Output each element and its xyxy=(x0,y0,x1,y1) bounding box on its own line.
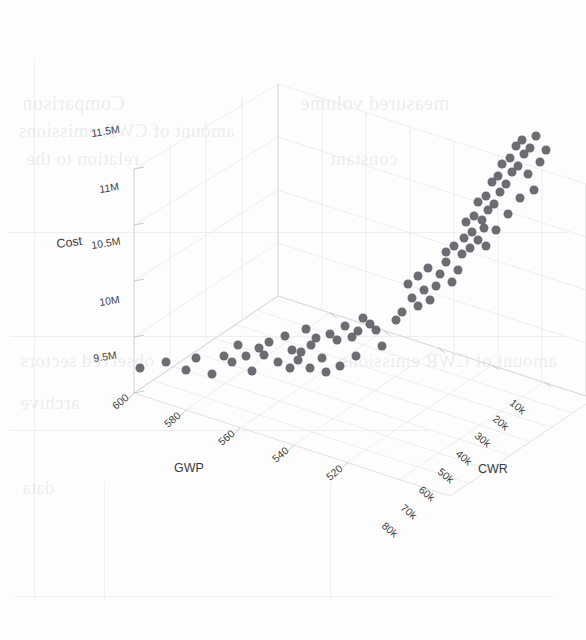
data-point xyxy=(442,258,451,267)
right-wall-grid xyxy=(278,84,586,396)
data-point xyxy=(432,282,441,291)
data-point xyxy=(288,346,297,355)
data-point xyxy=(302,325,311,334)
data-point xyxy=(341,322,350,331)
data-point xyxy=(474,198,483,207)
data-point xyxy=(518,136,527,145)
data-point xyxy=(352,352,361,361)
data-point xyxy=(516,194,525,203)
data-point xyxy=(265,338,274,347)
data-point xyxy=(526,144,535,153)
data-point xyxy=(354,327,363,336)
data-point xyxy=(378,342,387,351)
data-point xyxy=(281,332,290,341)
data-point xyxy=(498,160,507,169)
data-point xyxy=(478,216,487,225)
scatter-plot-3d: 11.5M 11M 10.5M 10M 9.5M Cost 600 580 56… xyxy=(0,0,586,640)
cwr-tick-label: 70k xyxy=(399,501,420,522)
gwp-tick-label: 540 xyxy=(270,444,291,465)
cost-axis: 11.5M 11M 10.5M 10M 9.5M Cost xyxy=(56,123,144,393)
data-point xyxy=(514,162,523,171)
data-point xyxy=(260,351,269,360)
data-point xyxy=(442,248,451,257)
cost-tick-label: 9.5M xyxy=(92,348,117,364)
data-point xyxy=(480,224,489,233)
data-point xyxy=(274,358,283,367)
cwr-axis: 10k 20k 30k 40k 50k 60k 70k 80k CWR xyxy=(330,313,551,540)
data-point xyxy=(248,367,257,376)
cost-axis-title: Cost xyxy=(56,234,84,251)
data-point xyxy=(306,364,315,373)
data-point xyxy=(490,200,499,209)
data-point xyxy=(294,356,303,365)
data-point xyxy=(228,358,237,367)
data-point xyxy=(192,354,201,363)
data-point xyxy=(506,154,515,163)
data-point xyxy=(326,330,335,339)
data-point xyxy=(436,270,445,279)
data-point xyxy=(426,296,435,305)
data-point xyxy=(286,364,295,373)
data-point xyxy=(333,336,342,345)
data-point xyxy=(408,294,417,303)
cost-tick-label: 11.5M xyxy=(90,123,120,139)
data-point xyxy=(312,334,321,343)
data-point xyxy=(208,370,217,379)
data-point xyxy=(502,180,511,189)
data-point xyxy=(468,228,477,237)
data-point xyxy=(532,132,541,141)
data-point xyxy=(466,244,475,253)
cwr-tick-label: 40k xyxy=(454,447,475,468)
data-point xyxy=(458,250,467,259)
data-point xyxy=(496,188,505,197)
data-point xyxy=(136,364,145,373)
cwr-tick-label: 10k xyxy=(508,396,529,417)
data-point xyxy=(482,242,491,251)
data-point xyxy=(392,316,401,325)
data-point xyxy=(530,186,539,195)
data-point xyxy=(404,280,413,289)
data-point xyxy=(359,314,368,323)
data-point xyxy=(414,272,423,281)
data-point xyxy=(454,266,463,275)
figure-page: Comparison amount of CWR emissions relat… xyxy=(0,0,586,640)
cwr-tick-label: 80k xyxy=(380,519,401,540)
data-point-group xyxy=(136,132,551,379)
data-point xyxy=(450,242,459,251)
gwp-tick-label: 520 xyxy=(324,462,345,483)
cwr-axis-title: CWR xyxy=(478,462,508,476)
gwp-tick-label: 580 xyxy=(162,409,183,430)
data-point xyxy=(504,210,513,219)
cwr-tick-label: 30k xyxy=(473,429,494,450)
data-point xyxy=(474,236,483,245)
data-point xyxy=(460,234,469,243)
gwp-tick-label: 560 xyxy=(216,427,237,448)
data-point xyxy=(420,286,429,295)
data-point xyxy=(318,354,327,363)
data-point xyxy=(297,348,306,357)
data-point xyxy=(482,192,491,201)
data-point xyxy=(234,341,243,350)
cost-tick-label: 11M xyxy=(98,180,119,195)
data-point xyxy=(398,308,407,317)
data-point xyxy=(494,172,503,181)
data-point xyxy=(220,352,229,361)
data-point xyxy=(448,278,457,287)
cost-tick-label: 10M xyxy=(98,293,120,308)
data-point xyxy=(322,368,331,377)
data-point xyxy=(182,366,191,375)
data-point xyxy=(470,212,479,221)
data-point xyxy=(492,226,501,235)
gwp-axis-title: GWP xyxy=(174,461,204,475)
data-point xyxy=(242,352,251,361)
data-point xyxy=(524,170,533,179)
data-point xyxy=(542,146,551,155)
data-point xyxy=(162,358,171,367)
data-point xyxy=(536,158,545,167)
data-point xyxy=(336,362,345,371)
gwp-tick-label: 600 xyxy=(110,391,131,412)
data-point xyxy=(462,218,471,227)
cost-tick-label: 10.5M xyxy=(90,235,121,251)
data-point xyxy=(372,326,381,335)
data-point xyxy=(424,264,433,273)
